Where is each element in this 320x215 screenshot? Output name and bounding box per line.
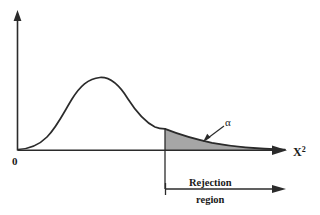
y-axis-arrowhead <box>14 10 22 21</box>
alpha-label: α <box>225 116 231 128</box>
rejection-region-label-line2: region <box>196 194 225 205</box>
chi-square-rejection-region-figure: 0 X2 α Rejection region <box>0 0 320 215</box>
x-axis-title-base: X <box>293 145 302 159</box>
chart-canvas: 0 X2 α Rejection region <box>0 0 320 215</box>
x-axis-title: X2 <box>293 145 306 160</box>
chi-square-density-curve <box>18 77 285 149</box>
rejection-measure-arrowhead <box>272 185 286 193</box>
rejection-area-shading <box>165 129 285 151</box>
origin-label: 0 <box>12 155 18 167</box>
x-axis-arrowhead <box>272 146 287 155</box>
x-axis-title-exponent: 2 <box>302 145 306 154</box>
rejection-region-label-line1: Rejection <box>189 177 232 188</box>
